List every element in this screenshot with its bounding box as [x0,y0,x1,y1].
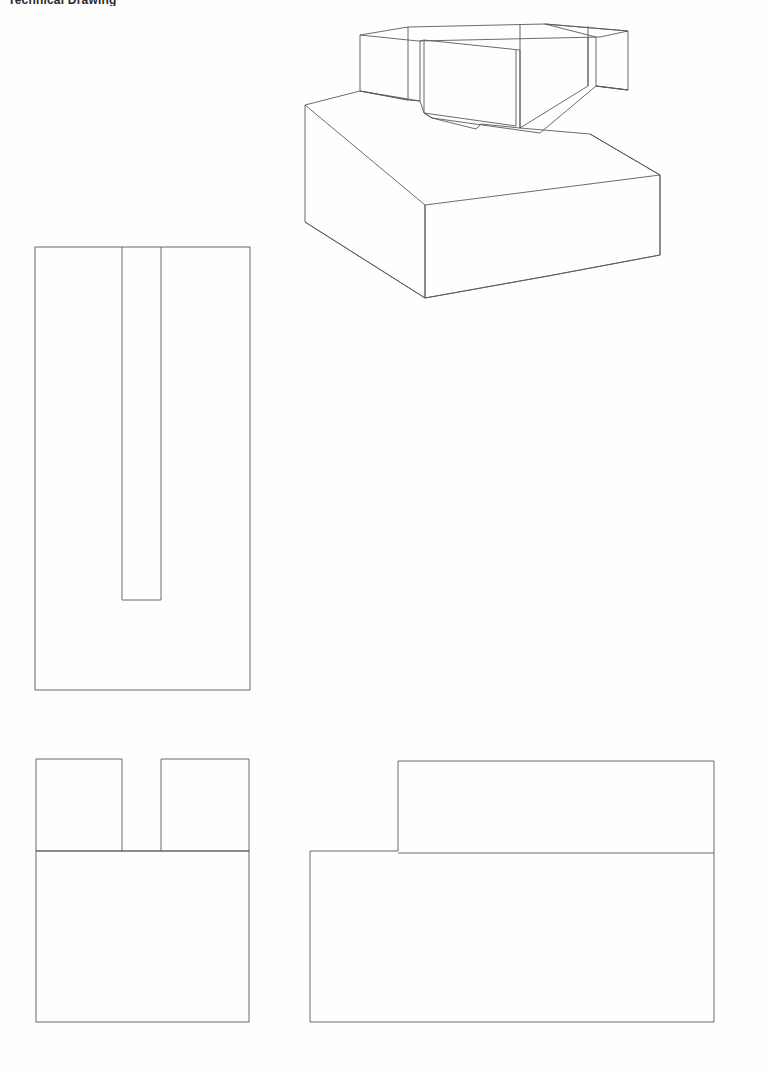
front-view-right-tab [161,759,249,851]
iso-through-line-d [424,40,520,50]
front-view-left-tab [36,759,122,851]
iso-base-left-face [305,105,425,298]
iso-slot-near-wall [424,40,516,126]
top-view-outline [35,247,250,690]
iso-base-bottom-left [305,222,425,298]
iso-base-bottom-front [425,255,660,298]
front-view-geometry [36,759,249,1022]
iso-base-front-right [425,175,660,298]
right-view-geometry [310,761,714,1022]
iso-rail-base-junction-right [596,86,628,90]
top-view-geometry [35,247,250,690]
iso-base-top-face [305,91,660,205]
isometric-view [0,0,772,1069]
front-view-base-outline [36,851,249,1022]
iso-slot-far-wall [520,37,588,128]
isometric-wireframe [305,24,660,298]
iso-rail-front-face [408,41,420,101]
top-view-slot [122,247,161,600]
iso-rail-right-end [596,31,628,90]
iso-slot-floor [424,86,596,133]
iso-base-back-right-edge [590,134,660,175]
right-view-outline [310,761,714,1022]
drawing-sheet: Technical Drawing [0,0,772,1069]
iso-rail-left-end [360,27,408,100]
iso-rail-base-junction-left [360,91,408,100]
